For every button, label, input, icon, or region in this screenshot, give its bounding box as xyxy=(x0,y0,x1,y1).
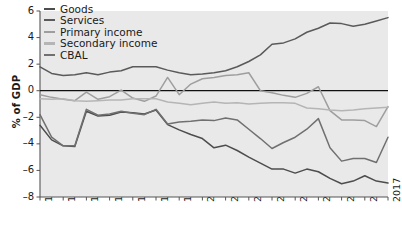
legend-swatch-icon xyxy=(44,8,55,10)
legend-item-services[interactable]: Services xyxy=(44,15,157,27)
legend-item-secondary-income[interactable]: Secondary income xyxy=(44,38,157,50)
legend-swatch-icon xyxy=(44,19,55,21)
chart-legend: GoodsServicesPrimary incomeSecondary inc… xyxy=(44,3,157,61)
legend-swatch-icon xyxy=(44,31,55,33)
legend-item-cbal[interactable]: CBAL xyxy=(44,49,157,61)
legend-item-goods[interactable]: Goods xyxy=(44,3,157,15)
legend-item-label: Primary income xyxy=(60,27,142,38)
legend-swatch-icon xyxy=(44,42,55,44)
legend-item-label: Goods xyxy=(60,4,93,15)
legend-item-label: Services xyxy=(60,15,104,26)
legend-item-primary-income[interactable]: Primary income xyxy=(44,26,157,38)
legend-swatch-icon xyxy=(44,54,55,56)
legend-item-label: Secondary income xyxy=(60,38,157,49)
x-tick-label: 2017 xyxy=(392,178,402,202)
legend-item-label: CBAL xyxy=(60,50,88,61)
